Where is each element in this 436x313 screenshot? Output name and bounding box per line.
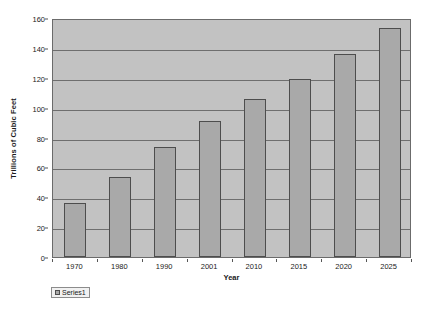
x-tick-mark bbox=[52, 259, 53, 262]
y-tick-mark bbox=[45, 168, 48, 169]
bar-2015[interactable] bbox=[289, 79, 311, 258]
y-axis-ticks: 020406080100120140160 bbox=[22, 19, 48, 258]
y-tick-mark bbox=[45, 138, 48, 139]
x-axis-title: Year bbox=[52, 273, 411, 282]
gridline bbox=[53, 199, 410, 200]
x-tick-label: 1970 bbox=[66, 262, 83, 271]
y-tick-label: 20 bbox=[37, 224, 45, 233]
y-tick-label: 120 bbox=[32, 74, 45, 83]
plot-inner bbox=[53, 20, 410, 257]
x-tick-label: 1980 bbox=[111, 262, 128, 271]
y-tick-mark bbox=[45, 228, 48, 229]
bar-2010[interactable] bbox=[244, 99, 266, 257]
y-tick-label: 160 bbox=[32, 15, 45, 24]
bar-chart: Trillions of Cubic Feet 0204060801001201… bbox=[0, 0, 436, 313]
legend-swatch-icon bbox=[55, 290, 60, 295]
bar-2025[interactable] bbox=[379, 28, 401, 257]
y-tick-label: 80 bbox=[37, 134, 45, 143]
x-tick-mark bbox=[97, 259, 98, 262]
y-tick-mark bbox=[45, 258, 48, 259]
x-axis-ticks: 19701980199020012010201520202025 bbox=[52, 259, 411, 273]
gridline bbox=[53, 50, 410, 51]
x-tick-mark bbox=[321, 259, 322, 262]
y-tick-mark bbox=[45, 78, 48, 79]
y-tick-label: 60 bbox=[37, 164, 45, 173]
y-tick-label: 100 bbox=[32, 104, 45, 113]
x-tick-mark bbox=[232, 259, 233, 262]
y-tick-label: 40 bbox=[37, 194, 45, 203]
bar-1990[interactable] bbox=[154, 147, 176, 257]
gridline bbox=[53, 169, 410, 170]
gridline bbox=[53, 140, 410, 141]
chart-legend[interactable]: Series1 bbox=[51, 287, 90, 298]
y-tick-mark bbox=[45, 108, 48, 109]
bar-2001[interactable] bbox=[199, 121, 221, 257]
legend-entry-label: Series1 bbox=[62, 289, 86, 296]
x-tick-mark bbox=[187, 259, 188, 262]
x-tick-label: 2020 bbox=[335, 262, 352, 271]
y-tick-label: 140 bbox=[32, 44, 45, 53]
x-tick-label: 2001 bbox=[201, 262, 218, 271]
gridline bbox=[53, 80, 410, 81]
x-tick-mark bbox=[276, 259, 277, 262]
y-tick-mark bbox=[45, 19, 48, 20]
plot-area bbox=[52, 19, 411, 258]
x-tick-mark bbox=[142, 259, 143, 262]
bar-2020[interactable] bbox=[334, 54, 356, 257]
y-tick-mark bbox=[45, 198, 48, 199]
y-axis-title-text: Trillions of Cubic Feet bbox=[9, 98, 18, 179]
x-tick-label: 2015 bbox=[290, 262, 307, 271]
bar-1980[interactable] bbox=[109, 177, 131, 257]
y-tick-mark bbox=[45, 48, 48, 49]
x-tick-label: 2010 bbox=[246, 262, 263, 271]
x-tick-label: 1990 bbox=[156, 262, 173, 271]
x-tick-mark bbox=[366, 259, 367, 262]
y-axis-title: Trillions of Cubic Feet bbox=[6, 19, 20, 258]
x-tick-label: 2025 bbox=[380, 262, 397, 271]
x-tick-mark bbox=[411, 259, 412, 262]
gridline bbox=[53, 229, 410, 230]
bar-1970[interactable] bbox=[64, 203, 86, 257]
gridline bbox=[53, 110, 410, 111]
